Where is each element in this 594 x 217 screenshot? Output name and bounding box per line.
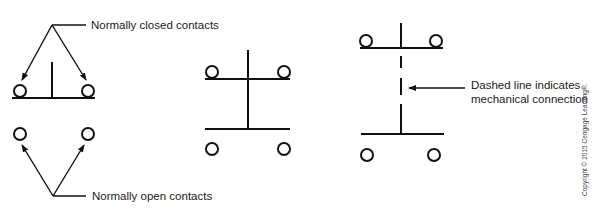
- nc-terminal-right: [82, 85, 94, 97]
- normally-closed-symbol: [12, 62, 95, 98]
- no-arrow-left: [22, 145, 53, 196]
- no-arrow-right: [53, 145, 84, 196]
- combined-no-terminal-left: [206, 143, 218, 155]
- mech-no-terminal-right: [428, 149, 440, 161]
- mech-nc-terminal-right: [430, 35, 442, 47]
- dashed-line-label-line2: mechanical connection: [471, 93, 588, 105]
- dashed-line-label-line1: Dashed line indicates: [471, 79, 581, 91]
- combined-no-terminal-right: [278, 143, 290, 155]
- combined-contact-symbol: [205, 50, 290, 155]
- mechanical-connection-symbol: [360, 23, 444, 161]
- nc-arrow-right: [52, 25, 86, 80]
- nc-arrow-left: [22, 25, 52, 80]
- nc-terminal-left: [14, 85, 26, 97]
- normally-closed-leader: [22, 25, 86, 80]
- combined-nc-terminal-left: [206, 66, 218, 78]
- contact-symbols-diagram: Normally closed contacts Normally open c…: [0, 0, 594, 217]
- normally-open-leader: [22, 145, 86, 196]
- normally-open-label: Normally open contacts: [92, 190, 212, 202]
- mech-nc-terminal-left: [360, 35, 372, 47]
- mech-no-terminal-left: [361, 149, 373, 161]
- no-terminal-left: [14, 128, 26, 140]
- copyright-notice: Copyright © 2015 Cengage Learning®.: [581, 83, 589, 196]
- normally-open-symbol: [14, 128, 94, 140]
- combined-nc-terminal-right: [278, 66, 290, 78]
- normally-closed-label: Normally closed contacts: [91, 19, 219, 31]
- no-terminal-right: [82, 128, 94, 140]
